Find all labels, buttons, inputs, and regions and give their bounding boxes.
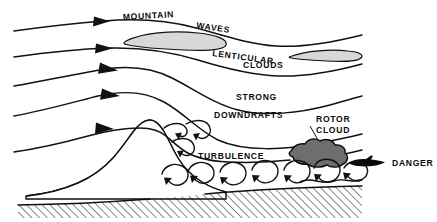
label-rotor-cloud: CLOUD [316,125,350,135]
aircraft-group [349,156,385,167]
diagram-canvas: MOUNTAIN WAVES LENTICULAR CLOUDS STRONG … [0,0,437,222]
label-danger: DANGER [392,158,434,168]
eddy-peak-1-path [164,124,187,137]
eddy-low-2 [188,162,214,183]
streamline-4-arrowhead [100,89,120,100]
streamline-2-arrowhead [95,44,113,54]
mountain-peak [26,120,226,199]
label-mountain: MOUNTAIN [123,9,175,22]
label-turbulence: TURBULENCE [198,151,264,161]
lenticular-cloud-1 [124,32,226,50]
aircraft-icon [349,156,385,167]
eddy-peak-2-arrowhead [193,133,200,141]
rotor-cloud-shape [289,139,347,167]
streamline-3 [14,63,362,114]
eddy-low-3 [220,162,246,184]
mountain-wave-diagram: MOUNTAIN WAVES LENTICULAR CLOUDS STRONG … [0,0,437,222]
terrain-group [18,120,364,220]
label-strong: STRONG [236,92,277,102]
eddy-peak-2 [186,121,210,141]
label-rotor: ROTOR [316,114,350,124]
mountain-outline [26,120,226,196]
label-downdrafts: DOWNDRAFTS [214,110,283,120]
streamline-1-arrowhead [93,17,110,27]
lenticular-cloud-2 [289,50,362,61]
eddy-low-4 [252,160,278,182]
label-clouds: CLOUDS [243,60,283,70]
